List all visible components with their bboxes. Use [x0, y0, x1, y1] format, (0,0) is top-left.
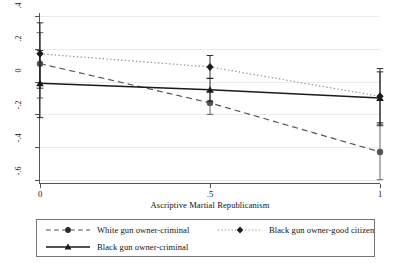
x-tick [40, 184, 41, 188]
y-tick [35, 114, 39, 115]
series-black-gun-owner-good-citizen [36, 23, 383, 124]
legend-item-black-gun-owner-good-citizen[interactable]: Black gun owner-good citizen [217, 222, 374, 237]
y-tick-label: 0 [14, 68, 23, 92]
y-tick [35, 147, 39, 148]
x-tick-label: .5 [195, 189, 225, 199]
data-point-marker [376, 92, 383, 100]
y-tick [35, 49, 39, 50]
data-point-marker [207, 100, 213, 106]
y-tick-label: -.6 [14, 166, 23, 190]
chart-legend: White gun owner-criminal Black gun owner… [36, 219, 375, 257]
y-tick-label: .2 [14, 35, 23, 59]
x-tick [210, 184, 211, 188]
legend-key-dotted-diamond-icon [217, 224, 263, 236]
gridline [40, 114, 380, 115]
legend-item-white-gun-owner-criminal[interactable]: White gun owner-criminal [45, 222, 189, 237]
chart-root: Effects on Linear Prediction .4.20-.2-.4… [0, 0, 408, 263]
series-white-gun-owner-criminal [37, 33, 384, 180]
y-tick [35, 180, 39, 181]
legend-label: White gun owner-criminal [97, 225, 189, 235]
gridline [40, 82, 380, 83]
legend-key-dashed-circle-icon [45, 224, 91, 236]
gridline [40, 49, 380, 50]
data-point-marker [206, 86, 214, 93]
data-point-marker [377, 149, 383, 155]
trend-line [40, 83, 380, 98]
legend-key-solid-triangle-icon [45, 241, 91, 253]
legend-label: Black gun owner-criminal [97, 242, 188, 252]
trend-line [40, 64, 380, 152]
x-axis-title: Ascriptive Martial Republicanism [40, 200, 380, 210]
data-point-marker [37, 60, 43, 66]
y-tick-label: -.2 [14, 101, 23, 125]
trend-line [40, 54, 380, 97]
y-tick [35, 82, 39, 83]
gridline [40, 147, 380, 148]
y-tick [35, 16, 39, 17]
gridline [40, 16, 380, 17]
x-tick [380, 184, 381, 188]
y-axis-line [39, 13, 40, 184]
y-tick-label: -.4 [14, 134, 23, 158]
data-point-marker [36, 50, 43, 58]
x-tick-label: 0 [25, 189, 55, 199]
legend-item-black-gun-owner-criminal[interactable]: Black gun owner-criminal [45, 239, 188, 254]
x-tick-label: 1 [365, 189, 395, 199]
legend-label: Black gun owner-good citizen [269, 225, 374, 235]
data-point-marker [206, 63, 213, 71]
data-point-marker [376, 94, 384, 101]
y-tick-label: .4 [14, 3, 23, 27]
gridline [40, 180, 380, 181]
